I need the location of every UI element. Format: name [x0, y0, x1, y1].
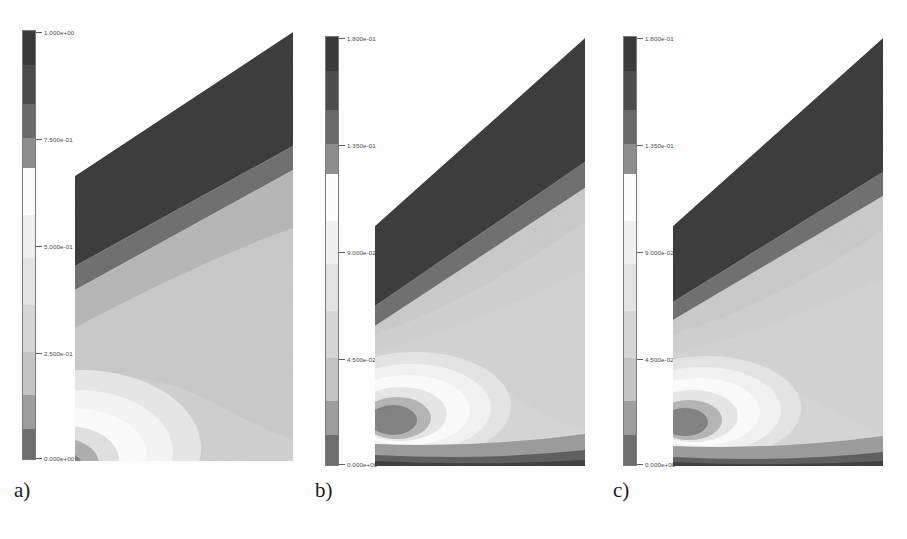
colorbar-tick-label: 1.000e+00	[44, 29, 74, 36]
colorbar-band	[23, 258, 35, 305]
colorbar-tick	[637, 252, 643, 253]
colorbar-tick-label: 1.800e-01	[347, 35, 376, 42]
colorbar-band	[624, 311, 636, 358]
colorbar-band	[624, 110, 636, 144]
colorbar-tick-label: 1.350e-01	[645, 142, 674, 149]
colorbar-band	[326, 221, 338, 264]
contour-plot-b	[375, 34, 587, 470]
colorbar-band	[326, 358, 338, 401]
colorbar-band	[23, 215, 35, 258]
colorbar-band	[23, 65, 35, 104]
colorbar-tick	[339, 252, 345, 253]
colorbar-band	[326, 110, 338, 144]
colorbar-band	[624, 401, 636, 435]
colorbar-band	[624, 71, 636, 110]
colorbar-band	[624, 358, 636, 401]
colorbar-tick	[36, 246, 42, 247]
colorbar-band	[624, 174, 636, 221]
contour-plot-b-svg	[375, 34, 587, 470]
colorbar-tick-label: 1.800e-01	[645, 35, 674, 42]
colorbar-tick-label: 2.500e-01	[44, 350, 73, 357]
panel-c: 1.800e-01 1.350e-01 9.000e-02 4.500e-02 …	[605, 0, 907, 539]
colorbar-band	[326, 401, 338, 435]
colorbar-tick	[339, 145, 345, 146]
colorbar-tick	[637, 359, 643, 360]
colorbar-tick	[339, 464, 345, 465]
colorbar-tick-label: 4.500e-02	[645, 356, 674, 363]
colorbar-tick	[637, 38, 643, 39]
panel-label-b: b)	[315, 478, 333, 503]
colorbar-tick-label: 7.500e-01	[44, 136, 73, 143]
colorbar-tick	[36, 32, 42, 33]
colorbar-band	[624, 221, 636, 264]
colorbar-b-gradient	[325, 36, 339, 466]
colorbar-c-gradient	[623, 36, 637, 466]
colorbar-tick-label: 0.000e+00	[44, 455, 74, 462]
colorbar-band	[23, 138, 35, 168]
colorbar-a-gradient	[22, 30, 36, 460]
colorbar-band	[326, 311, 338, 358]
colorbar-tick	[637, 464, 643, 465]
colorbar-band	[23, 168, 35, 215]
panel-label-c: c)	[613, 478, 629, 503]
colorbar-band	[326, 71, 338, 110]
colorbar-band	[326, 435, 338, 465]
colorbar-band	[624, 144, 636, 174]
contour-plot-c	[673, 34, 885, 470]
colorbar-tick	[36, 139, 42, 140]
colorbar-tick	[36, 458, 42, 459]
colorbar-band	[624, 435, 636, 465]
figure-canvas: 1.000e+00 7.500e-01 5.000e-01 2.500e-01 …	[0, 0, 907, 539]
panel-a: 1.000e+00 7.500e-01 5.000e-01 2.500e-01 …	[0, 0, 305, 539]
colorbar-band	[23, 104, 35, 138]
colorbar-band	[624, 264, 636, 311]
panel-b: 1.800e-01 1.350e-01 9.000e-02 4.500e-02 …	[305, 0, 605, 539]
colorbar-tick-label: 5.000e-01	[44, 243, 73, 250]
colorbar-band	[624, 37, 636, 71]
colorbar-band	[23, 352, 35, 395]
colorbar-band	[23, 395, 35, 429]
colorbar-band	[326, 264, 338, 311]
colorbar-band	[326, 37, 338, 71]
contour-plot-c-svg	[673, 34, 885, 470]
colorbar-tick-label: 4.500e-02	[347, 356, 376, 363]
colorbar-band	[23, 31, 35, 65]
colorbar-tick	[36, 353, 42, 354]
colorbar-tick-label: 1.350e-01	[347, 142, 376, 149]
colorbar-tick	[339, 359, 345, 360]
colorbar-tick-label: 0.000e+00	[645, 461, 675, 468]
colorbar-tick-label: 9.000e-02	[645, 249, 674, 256]
colorbar-tick	[637, 145, 643, 146]
panel-label-a: a)	[14, 478, 30, 503]
contour-plot-a-svg	[75, 28, 295, 464]
colorbar-band	[326, 174, 338, 221]
contour-plot-a	[75, 28, 295, 464]
colorbar-tick	[339, 38, 345, 39]
colorbar-band	[23, 305, 35, 352]
colorbar-band	[23, 429, 35, 459]
colorbar-tick-label: 9.000e-02	[347, 249, 376, 256]
colorbar-band	[326, 144, 338, 174]
colorbar-tick-label: 0.000e+00	[347, 461, 377, 468]
